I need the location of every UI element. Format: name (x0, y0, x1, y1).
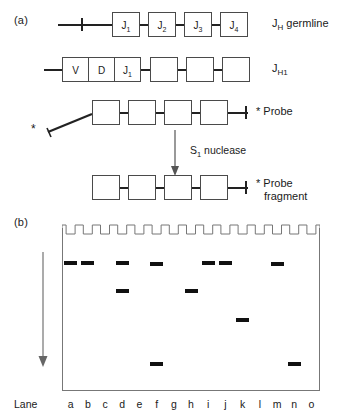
segment-empty-3 (164, 175, 192, 200)
radiolabel-asterisk: * (256, 177, 260, 189)
lane-label-n: n (288, 398, 300, 410)
lane-label-o: o (305, 398, 317, 410)
gel-band-lane-f (150, 262, 163, 266)
right-end-tick (245, 181, 247, 194)
gel-band-lane-a (64, 261, 77, 265)
gel-band-lane-n (288, 362, 301, 366)
gel-band-lane-b (81, 261, 94, 265)
segment-empty-3 (164, 100, 192, 125)
row-label-jh-germline: JH germline (272, 17, 329, 32)
lane-label-f: f (151, 398, 163, 410)
left-end-tick (81, 18, 83, 31)
segment-empty-2 (128, 100, 156, 125)
lane-label-j: j (219, 398, 231, 410)
s1-nuclease-label: S1 nuclease (190, 144, 246, 159)
segment-j4: J4 (220, 12, 248, 37)
gel-band-lane-d (116, 261, 129, 265)
right-end-tick (245, 106, 247, 119)
construct-row-jh-germline: J1 J2 J3 J4 JH germline (0, 12, 345, 38)
segment-j3: J3 (184, 12, 212, 37)
segment-empty-4 (200, 175, 228, 200)
lane-label-m: m (271, 398, 283, 410)
migration-direction-arrow (32, 252, 56, 370)
segment-j1: J1 (114, 57, 141, 82)
figure-root: (a) J1 J2 J3 J4 JH germline V D J1 (0, 0, 345, 418)
segment-empty-1 (150, 57, 178, 82)
lane-label-i: i (202, 398, 214, 410)
lane-label-a: a (65, 398, 77, 410)
lane-label-b: b (82, 398, 94, 410)
gel-band-lane-m (271, 262, 284, 266)
segment-empty-2 (128, 175, 156, 200)
segment-empty-1 (92, 100, 120, 125)
gel-band-lane-d (116, 289, 129, 293)
lane-label-e: e (133, 398, 145, 410)
panel-b-label: (b) (14, 216, 28, 228)
construct-row-jh1: V D J1 JH1 (0, 57, 345, 83)
construct-row-probe: * * Probe (0, 100, 345, 126)
row-label-jh1: JH1 (272, 62, 288, 77)
gel-well-row (62, 222, 320, 238)
gel-band-lane-j (219, 261, 232, 265)
lane-label-c: c (99, 398, 111, 410)
radiolabel-asterisk: * (256, 105, 260, 117)
segment-j2: J2 (148, 12, 176, 37)
gel-panel (62, 228, 320, 391)
lane-label-h: h (185, 398, 197, 410)
gel-band-lane-h (185, 289, 198, 293)
gel-band-lane-f (150, 362, 163, 366)
gel-band-lane-i (202, 261, 215, 265)
segment-v: V (62, 57, 89, 82)
lane-label-k: k (237, 398, 249, 410)
lane-label-l: l (254, 398, 266, 410)
segment-empty-1 (92, 175, 120, 200)
construct-row-probe-fragment: * Probe fragment (0, 175, 345, 201)
segment-j1: J1 (112, 12, 140, 37)
lane-label-g: g (168, 398, 180, 410)
row-label-probe-fragment: * Probe fragment (256, 177, 307, 203)
row-label-probe: * Probe (256, 105, 293, 117)
segment-empty-2 (186, 57, 214, 82)
segment-d: D (88, 57, 115, 82)
segment-empty-4 (200, 100, 228, 125)
gel-band-lane-k (236, 318, 249, 322)
lane-label-d: d (116, 398, 128, 410)
radiolabel-asterisk-left: * (31, 122, 36, 136)
s1-nuclease-arrow (166, 130, 188, 180)
lane-caption: Lane (14, 398, 37, 410)
segment-empty-3 (222, 57, 250, 82)
